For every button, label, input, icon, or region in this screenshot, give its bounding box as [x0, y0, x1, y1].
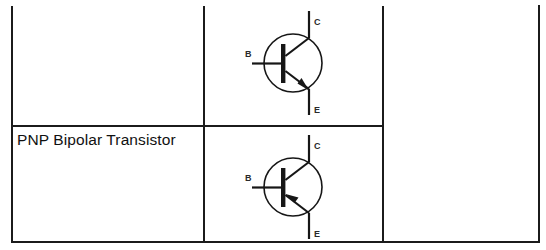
npn-bipolar-transistor-symbol: C B E — [243, 5, 345, 125]
row-label-pnp: PNP Bipolar Transistor — [17, 130, 176, 149]
pnp-bipolar-transistor-symbol: C B E — [243, 129, 345, 249]
terminal-label-emitter: E — [314, 229, 320, 239]
emitter-arrow-inward — [286, 194, 299, 203]
table-row: PNP Bipolar Transistor — [13, 127, 203, 241]
notes-cell-pnp — [384, 127, 538, 241]
terminal-label-emitter: E — [314, 105, 320, 115]
terminal-label-base: B — [245, 49, 252, 59]
collector-slant-lead — [285, 162, 309, 180]
collector-slant-lead — [285, 38, 309, 56]
table-border-right — [538, 5, 540, 243]
transistor-symbol-table: C B E PNP Bipolar Transistor — [0, 0, 546, 250]
base-bar — [281, 44, 285, 83]
table-row — [13, 7, 203, 125]
symbol-cell-pnp: C B E — [205, 127, 382, 241]
notes-cell-npn — [384, 7, 538, 125]
base-bar — [281, 168, 285, 207]
symbol-cell-npn: C B E — [205, 7, 382, 125]
emitter-arrow-outward — [298, 78, 310, 91]
terminal-label-collector: C — [314, 17, 321, 27]
terminal-label-collector: C — [314, 141, 321, 151]
terminal-label-base: B — [245, 173, 252, 183]
